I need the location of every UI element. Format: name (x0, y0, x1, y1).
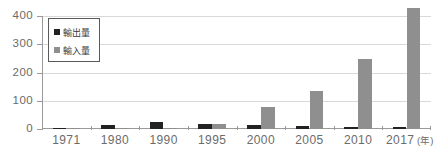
x-tick-mark-0 (42, 126, 43, 130)
x-tick-label-2000: 2000 (237, 133, 286, 147)
y-tick-label-400: 400 (0, 9, 33, 21)
x-tick-mark-6 (334, 126, 335, 130)
legend-label-export: 輸出量 (63, 26, 89, 39)
chart-legend: 輸出量 輸入量 (48, 18, 100, 62)
gridline-200 (42, 73, 431, 74)
x-tick-mark-7 (382, 126, 383, 130)
gridline-400 (42, 16, 431, 17)
gridline-300 (42, 44, 431, 45)
x-tick-mark-2 (139, 126, 140, 130)
x-tick-label-2017: 2017 (年) (378, 133, 441, 147)
bar-chart: 0100200300400 19711980199019952000200520… (0, 0, 441, 155)
bar-export-2000 (247, 125, 261, 129)
bar-import-2005 (310, 91, 324, 129)
bar-import-1995 (212, 124, 226, 129)
x-tick-mark-1 (91, 126, 92, 130)
y-tick-label-200: 200 (0, 66, 33, 78)
bar-export-1990 (150, 122, 164, 129)
y-tick-label-100: 100 (0, 94, 33, 106)
legend-swatch-import-icon (54, 47, 60, 53)
legend-swatch-export-icon (54, 29, 60, 35)
x-tick-label-1971: 1971 (42, 133, 91, 147)
bar-import-2010 (358, 59, 372, 129)
bar-export-1971 (53, 128, 67, 129)
bar-import-1990 (164, 128, 178, 129)
bar-export-2010 (344, 127, 358, 129)
legend-item-import: 輸入量 (54, 41, 99, 59)
x-tick-label-1990: 1990 (139, 133, 188, 147)
plot-area (42, 16, 431, 129)
x-tick-label-2010: 2010 (334, 133, 383, 147)
y-axis-line (42, 16, 43, 129)
bar-import-2000 (261, 107, 275, 129)
x-tick-mark-4 (237, 126, 238, 130)
x-tick-label-1980: 1980 (91, 133, 140, 147)
x-axis-unit-label: (年) (414, 135, 433, 146)
x-tick-mark-5 (285, 126, 286, 130)
x-tick-label-1995: 1995 (188, 133, 237, 147)
bar-export-1980 (101, 125, 115, 129)
legend-label-import: 輸入量 (63, 44, 89, 57)
x-tick-mark-3 (188, 126, 189, 130)
legend-item-export: 輸出量 (54, 23, 99, 41)
bar-export-2005 (296, 126, 310, 129)
x-tick-label-2005: 2005 (285, 133, 334, 147)
bar-import-1980 (115, 128, 129, 129)
x-tick-mark-end (430, 126, 431, 130)
bar-import-1971 (67, 128, 81, 129)
bar-import-2017 (407, 8, 421, 129)
y-tick-label-0: 0 (0, 122, 33, 134)
y-tick-label-300: 300 (0, 37, 33, 49)
gridline-100 (42, 101, 431, 102)
bar-export-2017 (393, 127, 407, 129)
bar-export-1995 (198, 124, 212, 129)
